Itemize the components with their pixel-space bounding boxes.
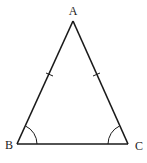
vertex-label-b: B (5, 138, 13, 152)
triangle (17, 21, 128, 144)
side-ab (17, 21, 73, 144)
side-ac (73, 21, 128, 144)
vertex-label-c: C (135, 139, 143, 153)
angle-arc-c (108, 126, 120, 144)
equal-side-tick-marks (46, 73, 100, 76)
equal-angle-arcs (26, 126, 120, 144)
vertex-label-a: A (69, 4, 78, 18)
isosceles-triangle-diagram: A B C (0, 0, 147, 163)
angle-arc-b (26, 126, 38, 144)
